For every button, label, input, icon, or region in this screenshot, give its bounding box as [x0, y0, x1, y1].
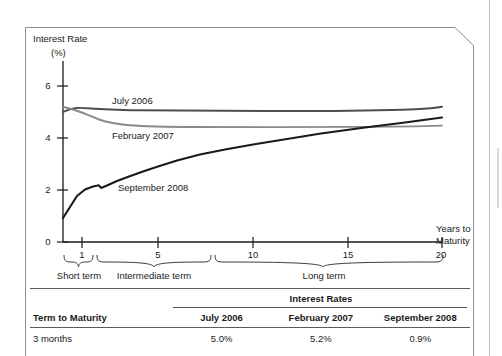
column-header-september-2008: September 2008 — [371, 307, 471, 328]
group-header-interest-rates: Interest Rates — [172, 289, 470, 308]
cell-september-2008: 0.9% — [371, 328, 471, 348]
y-tick-label-2: 2 — [41, 184, 55, 195]
y-tick-label-4: 4 — [41, 132, 55, 143]
series-label-february-2007: February 2007 — [111, 130, 175, 141]
x-axis-title-line2: Maturity — [436, 235, 470, 246]
x-tick-label-15: 15 — [337, 249, 359, 260]
x-tick-label-20: 20 — [430, 249, 452, 260]
series-label-july-2006: July 2006 — [111, 95, 154, 106]
table-column-header-row: Term to Maturity July 2006 February 2007… — [30, 307, 470, 328]
x-tick-label-10: 10 — [242, 249, 264, 260]
x-tick-label-1: 1 — [72, 249, 92, 260]
x-axis-title: Years to Maturity — [436, 223, 471, 246]
cell-term-to-maturity: 3 months — [30, 328, 172, 348]
y-axis-title: Interest Rate — [33, 33, 87, 44]
figure-panel: Interest Rate (%) Years to Maturity 0 2 … — [25, 27, 474, 356]
x-tick-label-5: 5 — [148, 249, 168, 260]
yield-curve-chart: Interest Rate (%) Years to Maturity 0 2 … — [25, 27, 474, 285]
interest-rates-table: Interest Rates Term to Maturity July 200… — [30, 288, 470, 347]
table-row: 3 months 5.0% 5.2% 0.9% — [30, 328, 470, 348]
y-tick-label-6: 6 — [41, 80, 55, 91]
page-right-edge — [489, 0, 490, 356]
chart-plot-area — [25, 27, 474, 285]
cell-february-2007: 5.2% — [271, 328, 370, 348]
brace-label-intermediate-term: Intermediate term — [113, 270, 195, 281]
table-group-underline — [30, 307, 470, 308]
brace-label-short-term: Short term — [43, 270, 115, 281]
cell-july-2006: 5.0% — [172, 328, 271, 348]
column-header-term-to-maturity: Term to Maturity — [30, 307, 172, 328]
group-header-spacer — [30, 289, 172, 308]
column-header-july-2006: July 2006 — [172, 307, 271, 328]
series-label-september-2008: September 2008 — [117, 182, 189, 193]
x-axis-title-line1: Years to — [436, 223, 471, 234]
series-line-july-2006 — [63, 107, 442, 112]
y-axis-unit-label: (%) — [51, 47, 66, 58]
brace-label-long-term: Long term — [288, 270, 360, 281]
page-scroll-edge — [497, 148, 499, 208]
y-tick-label-0: 0 — [41, 236, 55, 247]
table-group-header-row: Interest Rates — [30, 289, 470, 308]
column-header-february-2007: February 2007 — [271, 307, 370, 328]
